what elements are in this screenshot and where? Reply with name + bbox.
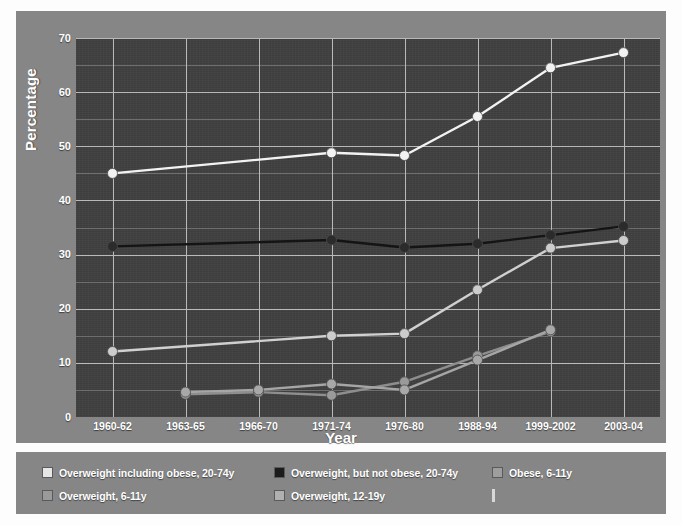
y-tick-label: 50 — [59, 141, 71, 152]
data-point-marker — [108, 347, 118, 357]
legend-swatch-icon — [42, 490, 53, 501]
series-layer — [76, 38, 660, 417]
data-point-marker — [327, 331, 337, 341]
data-point-marker — [546, 243, 556, 253]
legend-swatch-icon — [492, 489, 495, 502]
legend-swatch-icon — [492, 467, 503, 478]
y-tick-label: 10 — [59, 357, 71, 368]
data-point-marker — [108, 168, 118, 178]
y-tick-label: 0 — [65, 412, 71, 423]
legend-list: Overweight including obese, 20-74yOverwe… — [42, 461, 648, 507]
series-line — [186, 330, 551, 392]
y-tick-label: 20 — [59, 303, 71, 314]
legend-label: Overweight, 6-11y — [59, 490, 147, 502]
data-point-marker — [327, 235, 337, 245]
data-point-marker — [254, 385, 264, 395]
data-point-marker — [400, 243, 410, 253]
y-tick-label: 70 — [59, 33, 71, 44]
data-point-marker — [108, 241, 118, 251]
data-point-marker — [327, 379, 337, 389]
series-0 — [108, 48, 629, 179]
data-point-marker — [400, 385, 410, 395]
legend-label: Overweight, but not obese, 20-74y — [291, 467, 458, 479]
data-point-marker — [619, 236, 629, 246]
data-point-marker — [473, 355, 483, 365]
data-point-marker — [181, 387, 191, 397]
data-point-marker — [327, 390, 337, 400]
data-point-marker — [473, 112, 483, 122]
legend-item[interactable]: Overweight, 6-11y — [42, 490, 274, 502]
y-tick-label: 60 — [59, 87, 71, 98]
legend-item[interactable]: Obese, 6-11y — [492, 467, 648, 479]
data-point-marker — [546, 230, 556, 240]
legend-item[interactable]: Overweight, 12-19y — [274, 490, 492, 502]
data-point-marker — [473, 239, 483, 249]
x-axis-title: Year — [16, 429, 666, 446]
data-point-marker — [473, 285, 483, 295]
data-point-marker — [619, 48, 629, 58]
legend-label: Overweight, 12-19y — [291, 490, 385, 502]
legend-label: Overweight including obese, 20-74y — [59, 467, 234, 479]
series-3 — [108, 236, 629, 357]
legend-panel: Overweight including obese, 20-74yOverwe… — [16, 452, 666, 514]
data-point-marker — [327, 148, 337, 158]
data-point-marker — [546, 325, 556, 335]
chart-page: Percentage 010203040506070 1960-621963-6… — [0, 0, 682, 526]
chart-panel: Percentage 010203040506070 1960-621963-6… — [16, 11, 666, 443]
data-point-marker — [400, 151, 410, 161]
series-2 — [181, 327, 556, 401]
legend-swatch-icon — [274, 490, 285, 501]
plot-area — [76, 38, 660, 417]
y-tick-label: 40 — [59, 195, 71, 206]
data-point-marker — [546, 63, 556, 73]
y-tick-label: 30 — [59, 249, 71, 260]
legend-swatch-icon — [274, 467, 285, 478]
legend-swatch-icon — [42, 467, 53, 478]
data-point-marker — [619, 221, 629, 231]
series-line — [186, 332, 551, 396]
legend-item[interactable]: Overweight, but not obese, 20-74y — [274, 467, 492, 479]
legend-item[interactable] — [492, 489, 648, 502]
legend-label: Obese, 6-11y — [509, 467, 572, 479]
y-axis-title: Percentage — [22, 31, 39, 151]
data-point-marker — [400, 329, 410, 339]
legend-item[interactable]: Overweight including obese, 20-74y — [42, 467, 274, 479]
